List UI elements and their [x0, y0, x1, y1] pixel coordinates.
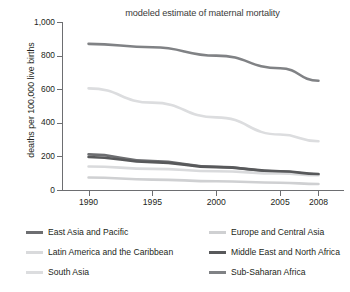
y-axis-tick [57, 22, 62, 23]
x-axis-tick [89, 191, 90, 196]
legend-item[interactable]: South Asia [26, 266, 89, 278]
maternal-mortality-chart-figure: modeled estimate of maternal mortality d… [0, 0, 350, 292]
legend-item-label: Latin America and the Caribbean [48, 248, 173, 257]
legend-color-swatch-icon [26, 271, 43, 274]
y-axis-tick-label: 800 [7, 51, 55, 59]
plot-area [63, 22, 344, 190]
y-axis-tick-label: 600 [7, 85, 55, 93]
chart-legend: East Asia and PacificLatin America and t… [26, 226, 344, 284]
legend-color-swatch-icon [209, 251, 226, 254]
series-lines-svg [63, 22, 344, 190]
x-axis-tick-label: 1995 [130, 198, 174, 207]
x-axis-tick [280, 191, 281, 196]
series-line [89, 88, 319, 141]
x-axis-tick [216, 191, 217, 196]
x-axis-tick-label: 2008 [296, 198, 340, 207]
x-axis-tick-label: 1990 [67, 198, 111, 207]
legend-item[interactable]: Sub-Saharan Africa [209, 266, 306, 278]
legend-item-label: Middle East and North Africa [231, 248, 340, 257]
legend-item-label: East Asia and Pacific [48, 228, 128, 237]
y-axis-tick [57, 156, 62, 157]
legend-item-label: Europe and Central Asia [231, 228, 324, 237]
y-axis-tick [57, 190, 62, 191]
y-axis-tick-label: 400 [7, 118, 55, 126]
legend-item[interactable]: East Asia and Pacific [26, 226, 128, 238]
legend-item-label: South Asia [48, 268, 89, 277]
legend-color-swatch-icon [26, 231, 43, 234]
x-axis-tick [318, 191, 319, 196]
legend-item[interactable]: Europe and Central Asia [209, 226, 324, 238]
series-line [89, 178, 319, 184]
x-axis-tick [152, 191, 153, 196]
legend-item[interactable]: Middle East and North Africa [209, 246, 340, 258]
legend-color-swatch-icon [26, 251, 43, 254]
y-axis-tick-label: 200 [7, 152, 55, 160]
legend-item-label: Sub-Saharan Africa [231, 268, 306, 277]
x-axis-line [62, 190, 344, 191]
y-axis-tick-label: 0 [7, 186, 55, 194]
legend-color-swatch-icon [209, 271, 226, 274]
x-axis-tick-label: 2000 [194, 198, 238, 207]
y-axis-tick-label: 1,000 [7, 18, 55, 26]
legend-color-swatch-icon [209, 231, 226, 234]
y-axis-tick [57, 123, 62, 124]
legend-item[interactable]: Latin America and the Caribbean [26, 246, 173, 258]
chart-title: modeled estimate of maternal mortality [60, 8, 345, 18]
y-axis-tick [57, 89, 62, 90]
series-line [89, 44, 319, 81]
y-axis-tick [57, 56, 62, 57]
